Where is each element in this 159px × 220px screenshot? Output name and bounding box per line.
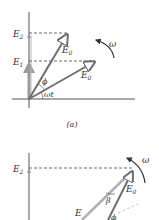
label-phi-b: ϕ (111, 213, 117, 220)
figure-a: E2 E1 E0 E0 ϕ ωt ω (a) (12, 12, 135, 129)
projection-e2-arrow (27, 33, 31, 38)
label-e0-lower: E0 (80, 70, 92, 81)
label-beta: β (105, 196, 111, 205)
label-omega: ω (109, 39, 117, 49)
dashed-extension-b (118, 204, 138, 213)
label-omega-b: ω (142, 155, 150, 165)
figure-b: E2 E0 E β ϕ ω (12, 153, 150, 220)
label-e1: E1 (12, 57, 23, 68)
phasor-diagram: E2 E1 E0 E0 ϕ ωt ω (a) E2 E0 E β ϕ ω (0, 0, 159, 220)
label-omega-t: ωt (44, 90, 55, 99)
label-e2-b: E2 (12, 164, 24, 175)
label-e0-upper: E0 (61, 45, 73, 56)
caption-a: (a) (66, 120, 77, 129)
arc-omega-t (41, 92, 43, 99)
label-e-b: E (74, 208, 82, 218)
projection-e2-arrow-b (27, 168, 31, 173)
label-e0-b: E0 (125, 184, 137, 195)
label-phi: ϕ (42, 77, 48, 86)
phasor-e0-lower (29, 62, 94, 99)
label-e2: E2 (12, 29, 24, 40)
